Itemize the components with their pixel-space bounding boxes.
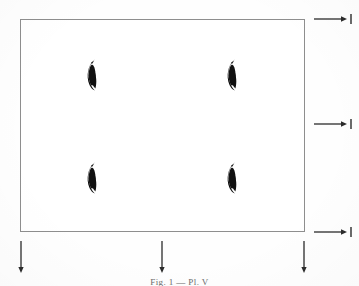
- right-arrow-icon-middle: [313, 117, 355, 131]
- leaf-inclusion-2: [226, 58, 239, 92]
- figure-caption: Fig. 1 — Pl. V: [0, 277, 359, 286]
- leaf-inclusion-4: [226, 161, 239, 195]
- right-arrow-icon-top: [313, 12, 355, 26]
- down-arrow-icon-left: [14, 240, 28, 274]
- leaf-inclusion-3: [86, 161, 99, 195]
- figure-canvas: Fig. 1 — Pl. V: [0, 0, 359, 286]
- leaf-inclusion-1: [86, 58, 99, 92]
- right-arrow-icon-bottom: [313, 225, 355, 239]
- down-arrow-icon-center: [155, 240, 169, 274]
- down-arrow-icon-right: [297, 240, 311, 274]
- domain-rectangle: [20, 19, 305, 232]
